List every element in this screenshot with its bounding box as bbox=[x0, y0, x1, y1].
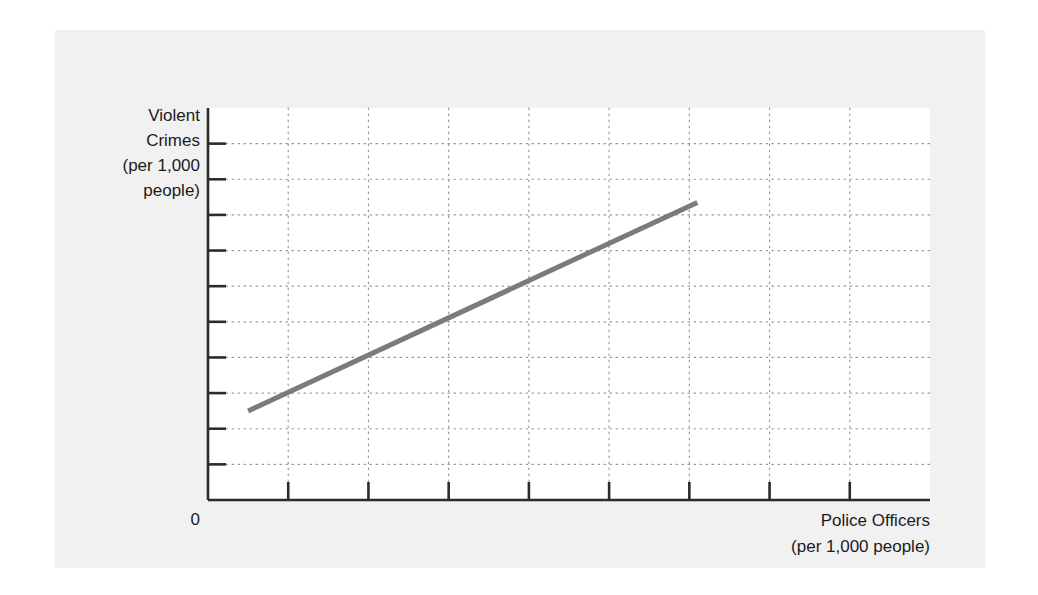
x-axis-title: Police Officers (per 1,000 people) bbox=[600, 508, 930, 560]
y-axis-title: Violent Crimes (per 1,000 people) bbox=[40, 103, 200, 203]
origin-tick-label: 0 bbox=[160, 509, 200, 531]
chart-figure: Violent Crimes (per 1,000 people) Police… bbox=[0, 0, 1038, 595]
axes-layer bbox=[0, 0, 1038, 595]
